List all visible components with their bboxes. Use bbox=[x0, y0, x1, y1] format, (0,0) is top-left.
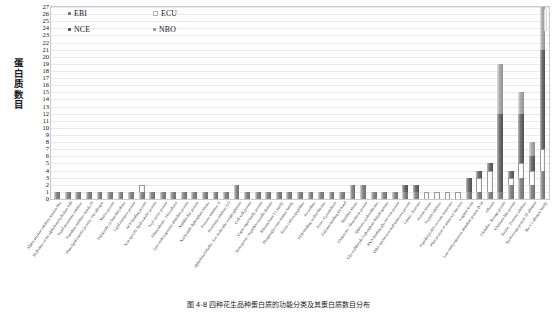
bar-slot bbox=[52, 7, 63, 199]
bar-stack[interactable] bbox=[445, 192, 451, 199]
bar-segment-ebi bbox=[234, 185, 240, 199]
legend-item-ebi[interactable]: EBI bbox=[68, 9, 153, 18]
bar-slot bbox=[432, 7, 443, 199]
bar-slot bbox=[453, 7, 464, 199]
bar-stack[interactable] bbox=[170, 192, 176, 199]
plot-area bbox=[50, 6, 550, 200]
bar-stack[interactable] bbox=[308, 192, 314, 199]
bar-segment-ecu bbox=[445, 192, 451, 199]
bar-stack[interactable] bbox=[65, 192, 71, 199]
bar-segment-ebi bbox=[329, 192, 335, 199]
bar-segment-ebi bbox=[371, 192, 377, 199]
bar-slot bbox=[252, 7, 263, 199]
bar-stack[interactable] bbox=[139, 185, 145, 199]
bar-stack[interactable] bbox=[329, 192, 335, 199]
bar-stack[interactable] bbox=[518, 92, 524, 199]
bar-slot bbox=[537, 7, 548, 199]
bar-stack[interactable] bbox=[128, 192, 134, 199]
bar-slot bbox=[506, 7, 517, 199]
bar-segment-nce bbox=[487, 163, 493, 170]
bar-stack[interactable] bbox=[191, 192, 197, 199]
bar-stack[interactable] bbox=[160, 192, 166, 199]
bar-stack[interactable] bbox=[476, 171, 482, 199]
bar-stack[interactable] bbox=[255, 192, 261, 199]
bar-slot bbox=[147, 7, 158, 199]
bar-stack[interactable] bbox=[424, 192, 430, 199]
bar-stack[interactable] bbox=[97, 192, 103, 199]
bar-stack[interactable] bbox=[455, 192, 461, 199]
bar-stack[interactable] bbox=[339, 192, 345, 199]
bar-slot bbox=[411, 7, 422, 199]
bar-segment-ebi bbox=[497, 192, 503, 199]
bar-slot bbox=[263, 7, 274, 199]
bar-stack[interactable] bbox=[86, 192, 92, 199]
bar-stack[interactable] bbox=[276, 192, 282, 199]
legend-swatch-icon bbox=[68, 12, 71, 15]
bar-stack[interactable] bbox=[392, 192, 398, 199]
bar-segment-ebi bbox=[107, 192, 113, 199]
bar-slot bbox=[105, 7, 116, 199]
bar-stack[interactable] bbox=[265, 192, 271, 199]
bar-segment-ebi bbox=[413, 192, 419, 199]
bar-segment-ebi bbox=[476, 192, 482, 199]
bar-segment-ebi bbox=[276, 192, 282, 199]
bar-stack[interactable] bbox=[107, 192, 113, 199]
bar-segment-ecu bbox=[487, 171, 493, 192]
bar-stack[interactable] bbox=[487, 163, 493, 199]
bar-slot bbox=[231, 7, 242, 199]
bar-slot bbox=[463, 7, 474, 199]
bar-segment-ebi bbox=[86, 192, 92, 199]
bar-segment-ebi bbox=[202, 192, 208, 199]
bar-slot bbox=[442, 7, 453, 199]
bar-segment-nce bbox=[476, 171, 482, 178]
legend-item-ecu[interactable]: ECU bbox=[153, 9, 238, 18]
bar-slot bbox=[210, 7, 221, 199]
bar-segment-ebi bbox=[255, 192, 261, 199]
legend-item-nce[interactable]: NCE bbox=[68, 25, 153, 34]
bar-stack[interactable] bbox=[497, 64, 503, 199]
bar-stack[interactable] bbox=[75, 192, 81, 199]
bar-slot bbox=[242, 7, 253, 199]
bar-stack[interactable] bbox=[434, 192, 440, 199]
bar-stack[interactable] bbox=[381, 192, 387, 199]
bar-slot bbox=[484, 7, 495, 199]
bar-slot bbox=[368, 7, 379, 199]
bar-segment-nce bbox=[497, 114, 503, 192]
bar-segment-ebi bbox=[318, 192, 324, 199]
bar-stack[interactable] bbox=[297, 192, 303, 199]
bar-stack[interactable] bbox=[118, 192, 124, 199]
bar-slot bbox=[115, 7, 126, 199]
bar-stack[interactable] bbox=[529, 142, 535, 199]
bar-stack[interactable] bbox=[223, 192, 229, 199]
bar-segment-ebi bbox=[65, 192, 71, 199]
bar-stack[interactable] bbox=[181, 192, 187, 199]
bar-stack[interactable] bbox=[371, 192, 377, 199]
legend-item-nbo[interactable]: NBO bbox=[153, 25, 238, 34]
bar-segment-ecu bbox=[529, 171, 535, 185]
bar-stack[interactable] bbox=[466, 178, 472, 199]
bar-stack[interactable] bbox=[149, 192, 155, 199]
bar-stack[interactable] bbox=[286, 192, 292, 199]
bar-segment-ebi bbox=[308, 192, 314, 199]
bar-stack[interactable] bbox=[360, 185, 366, 199]
bar-segment-ebi bbox=[297, 192, 303, 199]
bar-stack[interactable] bbox=[234, 185, 240, 199]
bar-stack[interactable] bbox=[402, 185, 408, 199]
bar-segment-ebi bbox=[540, 171, 546, 199]
bar-stack[interactable] bbox=[540, 7, 546, 199]
legend-swatch-icon bbox=[153, 11, 158, 16]
bar-segment-ebi bbox=[75, 192, 81, 199]
bar-stack[interactable] bbox=[202, 192, 208, 199]
bar-stack[interactable] bbox=[318, 192, 324, 199]
bar-segment-nbo bbox=[529, 142, 535, 156]
bar-stack[interactable] bbox=[244, 192, 250, 199]
bar-stack[interactable] bbox=[508, 171, 514, 199]
bar-stack[interactable] bbox=[350, 185, 356, 199]
bar-stack[interactable] bbox=[54, 192, 60, 199]
bar-stack[interactable] bbox=[213, 192, 219, 199]
y-axis-tick-label: 0 bbox=[33, 196, 49, 203]
bar-segment-ebi bbox=[402, 192, 408, 199]
bar-segment-ecu bbox=[434, 192, 440, 199]
bar-stack[interactable] bbox=[413, 185, 419, 199]
figure-caption: 图 4-8 四种花生品种蛋白质的功能分类及其蛋白质数目分布 bbox=[0, 299, 557, 309]
